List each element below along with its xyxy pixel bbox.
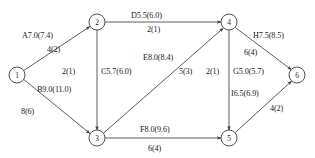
edge-E-primary-label: E8.0(8.4)	[143, 54, 173, 62]
node-3-label: 3	[95, 134, 99, 143]
node-5-label: 5	[227, 134, 231, 143]
edge-B-secondary-label: 8(6)	[21, 108, 34, 116]
edge-B-primary-label: B9.0(11.0)	[37, 86, 71, 94]
edge-H-primary-label: H7.5(8.5)	[253, 32, 284, 40]
edge-F-primary-label: F8.0(9.6)	[140, 126, 170, 134]
node-2-label: 2	[95, 18, 99, 27]
edge-I-primary-label: I6.5(6.9)	[231, 90, 259, 98]
edge-D-primary-label: D5.5(6.0)	[131, 12, 162, 20]
edges-group	[24, 22, 292, 138]
network-graph: 1 2 3 4 5 6	[0, 0, 315, 158]
edge-I-secondary-label: 4(2)	[270, 105, 283, 113]
edge-A-primary-label: A7.0(7.4)	[22, 32, 53, 40]
edge-E-3-to-4	[104, 28, 224, 133]
node-6-label: 6	[295, 71, 299, 80]
edge-A-secondary-label: 4(2)	[47, 46, 60, 54]
edge-E-secondary-label: 5(3)	[179, 68, 192, 76]
node-1-label: 1	[15, 71, 19, 80]
edge-C-secondary-label: 2(1)	[62, 68, 75, 76]
edge-G-primary-label: G5.0(5.7)	[233, 68, 264, 76]
node-4-label: 4	[227, 18, 231, 27]
network-diagram-canvas: 1 2 3 4 5 6 A7.0(7.4) 4(2) B9.0(11.0) 8(…	[0, 0, 315, 158]
edge-C-primary-label: C5.7(6.0)	[101, 68, 131, 76]
edge-D-secondary-label: 2(1)	[147, 26, 160, 34]
edge-G-secondary-label: 2(1)	[206, 68, 219, 76]
edge-F-secondary-label: 6(4)	[148, 145, 161, 153]
edge-H-secondary-label: 6(4)	[244, 49, 257, 57]
